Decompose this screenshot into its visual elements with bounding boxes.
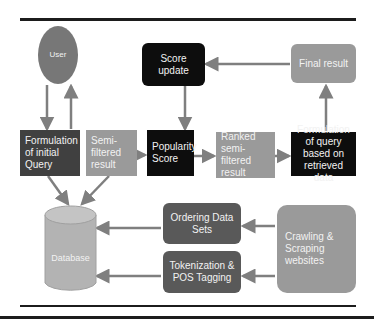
tokenization-node: Tokenization & POS Tagging	[163, 251, 241, 293]
popularity-score-node: Popularity Score	[147, 130, 194, 176]
semi-filtered-node: Semi-filtered result	[86, 130, 137, 176]
tokenization-label: Tokenization & POS Tagging	[168, 260, 236, 284]
initial-query-label: Formulation of initial Query	[25, 135, 78, 171]
final-result-label: Final result	[299, 58, 348, 70]
query-retrieved-node: Formulation of query based on retrieved …	[291, 132, 356, 176]
final-result-node: Final result	[291, 44, 356, 83]
user-label: User	[50, 49, 67, 61]
semi-filtered-label: Semi-filtered result	[91, 135, 132, 171]
crawling-label: Crawling & Scraping websites	[285, 231, 340, 267]
ordering-node: Ordering Data Sets	[163, 203, 241, 244]
crawling-node: Crawling & Scraping websites	[277, 205, 356, 293]
initial-query-node: Formulation of initial Query	[20, 130, 80, 176]
database-cylinder-icon	[44, 205, 97, 293]
score-update-node: Score update	[142, 43, 205, 86]
user-node: User	[38, 26, 78, 84]
ordering-label: Ordering Data Sets	[168, 212, 236, 236]
query-retrieved-label: Formulation of query based on retrieved …	[296, 124, 351, 184]
score-update-label: Score update	[147, 53, 200, 77]
ranked-result-label: Ranked semi-filtered result	[221, 131, 270, 179]
database-label: Database	[44, 253, 97, 263]
ranked-result-node: Ranked semi-filtered result	[216, 132, 275, 178]
popularity-score-label: Popularity Score	[152, 141, 196, 165]
database-node: Database	[44, 205, 97, 293]
